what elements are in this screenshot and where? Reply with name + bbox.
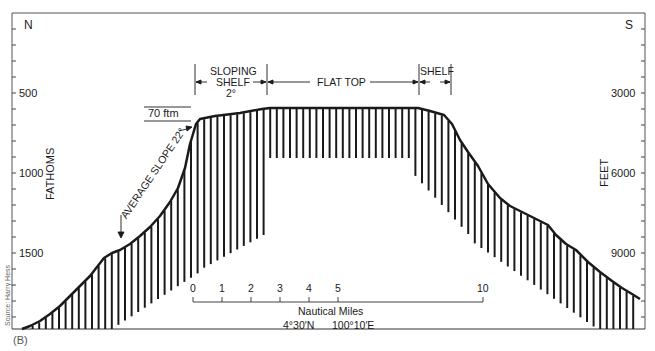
latitude-label: 4°30′N bbox=[283, 320, 314, 331]
compass-south: S bbox=[625, 19, 633, 31]
source-credit: Source: Harry Hess bbox=[4, 265, 11, 326]
panel-label: (B) bbox=[13, 335, 28, 346]
compass-north: N bbox=[24, 19, 33, 31]
scale-tick-label: 4 bbox=[306, 283, 312, 294]
scale-bar[interactable] bbox=[193, 297, 483, 302]
scale-tick-label: 5 bbox=[335, 283, 341, 294]
sloping-shelf-label-1: SLOPING bbox=[210, 66, 257, 77]
scale-tick-label: 0 bbox=[190, 283, 196, 294]
hachure-lines bbox=[26, 109, 633, 329]
seamount-profile-outline bbox=[22, 108, 640, 329]
sloping-shelf-angle: 2° bbox=[226, 88, 236, 99]
right-tick-6000: 6000 bbox=[611, 168, 635, 179]
frame bbox=[12, 13, 645, 329]
longitude-label: 100°10′E bbox=[332, 320, 374, 331]
scale-tick-label: 1 bbox=[219, 283, 225, 294]
left-axis-title: FATHOMS bbox=[44, 148, 56, 200]
flat-top-label: FLAT TOP bbox=[317, 77, 366, 88]
scale-tick-label: 2 bbox=[248, 283, 254, 294]
guyot-profile-figure: N S 500 1000 1500 3000 6000 9000 FATHOMS… bbox=[0, 0, 655, 351]
right-axis-ticks bbox=[641, 29, 645, 317]
shelf-label: SHELF bbox=[420, 66, 454, 77]
left-tick-500: 500 bbox=[19, 88, 37, 99]
right-tick-3000: 3000 bbox=[611, 88, 635, 99]
left-axis-ticks bbox=[12, 29, 16, 317]
right-tick-9000: 9000 bbox=[611, 248, 635, 259]
right-axis-title: FEET bbox=[598, 159, 610, 187]
scale-tick-label: 3 bbox=[277, 283, 283, 294]
sloping-shelf-label-2: SHELF bbox=[216, 77, 250, 88]
scale-tick-label: 10 bbox=[477, 283, 489, 294]
scale-unit-label: Nautical Miles bbox=[298, 306, 363, 317]
left-tick-1000: 1000 bbox=[19, 168, 43, 179]
left-tick-1500: 1500 bbox=[19, 248, 43, 259]
profile-diagram bbox=[0, 0, 655, 351]
relief-label: 70 ftm bbox=[148, 108, 179, 119]
